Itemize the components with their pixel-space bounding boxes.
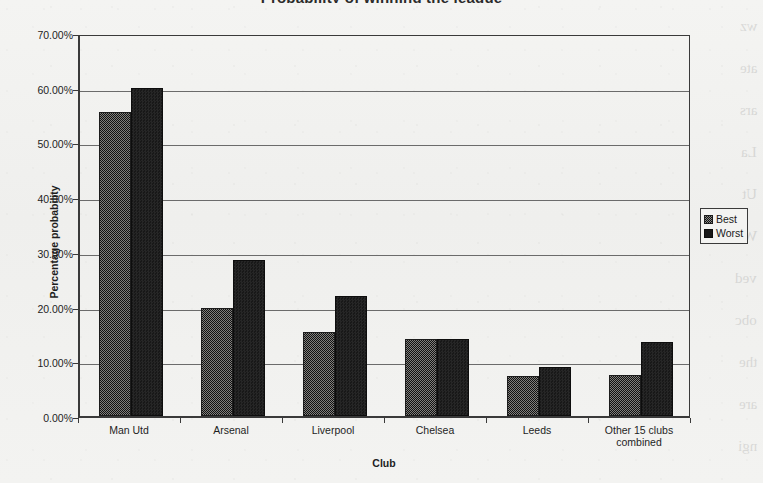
x-axis-tick-mark: [78, 418, 79, 423]
bar-chart-figure: Probability of winning the league Percen…: [0, 0, 763, 483]
bar-best-chelsea: [405, 339, 437, 416]
x-axis-tick-label: Chelsea: [384, 424, 486, 436]
chart-title: Probability of winning the league: [0, 0, 763, 3]
x-axis-tick-label: Man Utd: [78, 424, 180, 436]
x-axis-tick-mark: [180, 418, 181, 423]
y-axis-tick-label: 20.00%: [0, 303, 73, 315]
x-axis-tick-mark: [384, 418, 385, 423]
legend-entry-best[interactable]: Best: [704, 212, 743, 226]
bar-worst-other-15-clubs-combined: [641, 342, 673, 416]
y-axis-tick-label: 30.00%: [0, 248, 73, 260]
gridline: [80, 91, 689, 92]
bar-worst-leeds: [539, 367, 571, 416]
chart-legend[interactable]: BestWorst: [700, 208, 748, 244]
gridline: [80, 364, 689, 365]
bar-worst-arsenal: [233, 260, 265, 416]
y-axis-tick-label: 10.00%: [0, 357, 73, 369]
x-axis-tick-mark: [282, 418, 283, 423]
x-axis-title: Club: [78, 457, 690, 469]
y-axis-tick-label: 40.00%: [0, 193, 73, 205]
gridline: [80, 200, 689, 201]
y-axis-tick-label: 50.00%: [0, 138, 73, 150]
gridline: [80, 255, 689, 256]
y-axis-tick-label: 60.00%: [0, 84, 73, 96]
x-axis-tick-mark: [486, 418, 487, 423]
x-axis-tick-mark: [588, 418, 589, 423]
bar-best-arsenal: [201, 308, 233, 416]
y-axis-title: Percentage probability: [48, 132, 60, 352]
bar-worst-liverpool: [335, 296, 367, 416]
bar-best-liverpool: [303, 332, 335, 416]
x-axis-tick-label: Leeds: [486, 424, 588, 436]
legend-label: Best: [716, 213, 737, 225]
legend-label: Worst: [716, 227, 743, 239]
y-axis-tick-label: 70.00%: [0, 29, 73, 41]
x-axis-tick-label: Other 15 clubs combined: [588, 424, 690, 448]
solid-black-swatch: [704, 229, 713, 238]
x-axis-tick-label: Liverpool: [282, 424, 384, 436]
x-axis-tick-label: Arsenal: [180, 424, 282, 436]
gridline: [80, 310, 689, 311]
bar-best-other-15-clubs-combined: [609, 375, 641, 416]
x-axis-tick-mark: [690, 418, 691, 423]
hatched-dark-swatch: [704, 215, 713, 224]
y-axis-tick-label: 0.00%: [0, 412, 73, 424]
bar-worst-man-utd: [131, 88, 163, 416]
gridline: [80, 145, 689, 146]
legend-entry-worst[interactable]: Worst: [704, 226, 743, 240]
plot-area: [78, 35, 690, 418]
bar-best-man-utd: [99, 112, 131, 416]
bar-best-leeds: [507, 376, 539, 416]
bar-worst-chelsea: [437, 339, 469, 416]
